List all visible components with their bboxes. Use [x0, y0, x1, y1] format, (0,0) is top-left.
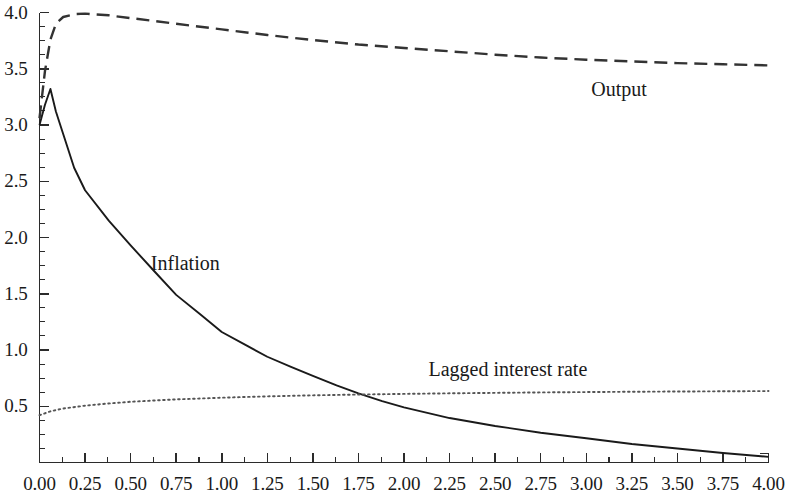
impulse-response-chart: 0.51.01.52.02.53.03.54.0 0.000.250.500.7… [0, 0, 785, 498]
y-tick-label: 0.5 [0, 395, 28, 417]
x-tick-label: 3.00 [570, 473, 602, 495]
x-tick-label: 1.25 [251, 473, 283, 495]
series-path-lagged-interest-rate [40, 391, 769, 415]
y-tick-label: 4.0 [0, 2, 28, 24]
series-lines [40, 14, 769, 457]
x-tick-label: 0.75 [160, 473, 192, 495]
x-tick-label: 2.50 [479, 473, 511, 495]
y-tick-label: 2.5 [0, 170, 28, 192]
x-tick-label: 1.50 [297, 473, 329, 495]
x-tick-label: 3.50 [661, 473, 693, 495]
series-label-inflation: Inflation [151, 252, 220, 275]
x-tick-label: 2.25 [433, 473, 465, 495]
x-tick-label: 0.50 [114, 473, 146, 495]
y-tick-label: 2.0 [0, 227, 28, 249]
y-tick-label: 3.5 [0, 58, 28, 80]
axis-ticks [40, 13, 769, 463]
x-tick-label: 4.00 [752, 473, 784, 495]
x-tick-label: 0.00 [23, 473, 55, 495]
x-tick-label: 3.75 [707, 473, 739, 495]
axis-frame [40, 13, 769, 463]
series-label-output: Output [591, 78, 647, 101]
y-tick-label: 3.0 [0, 114, 28, 136]
chart-canvas [0, 0, 785, 498]
x-tick-label: 3.25 [616, 473, 648, 495]
series-label-lagged-interest-rate: Lagged interest rate [428, 358, 587, 381]
x-tick-label: 2.00 [388, 473, 420, 495]
x-tick-label: 1.00 [206, 473, 238, 495]
x-tick-label: 1.75 [342, 473, 374, 495]
x-tick-label: 2.75 [524, 473, 556, 495]
x-tick-label: 0.25 [69, 473, 101, 495]
y-tick-label: 1.0 [0, 339, 28, 361]
series-path-output [40, 14, 769, 119]
y-tick-label: 1.5 [0, 283, 28, 305]
